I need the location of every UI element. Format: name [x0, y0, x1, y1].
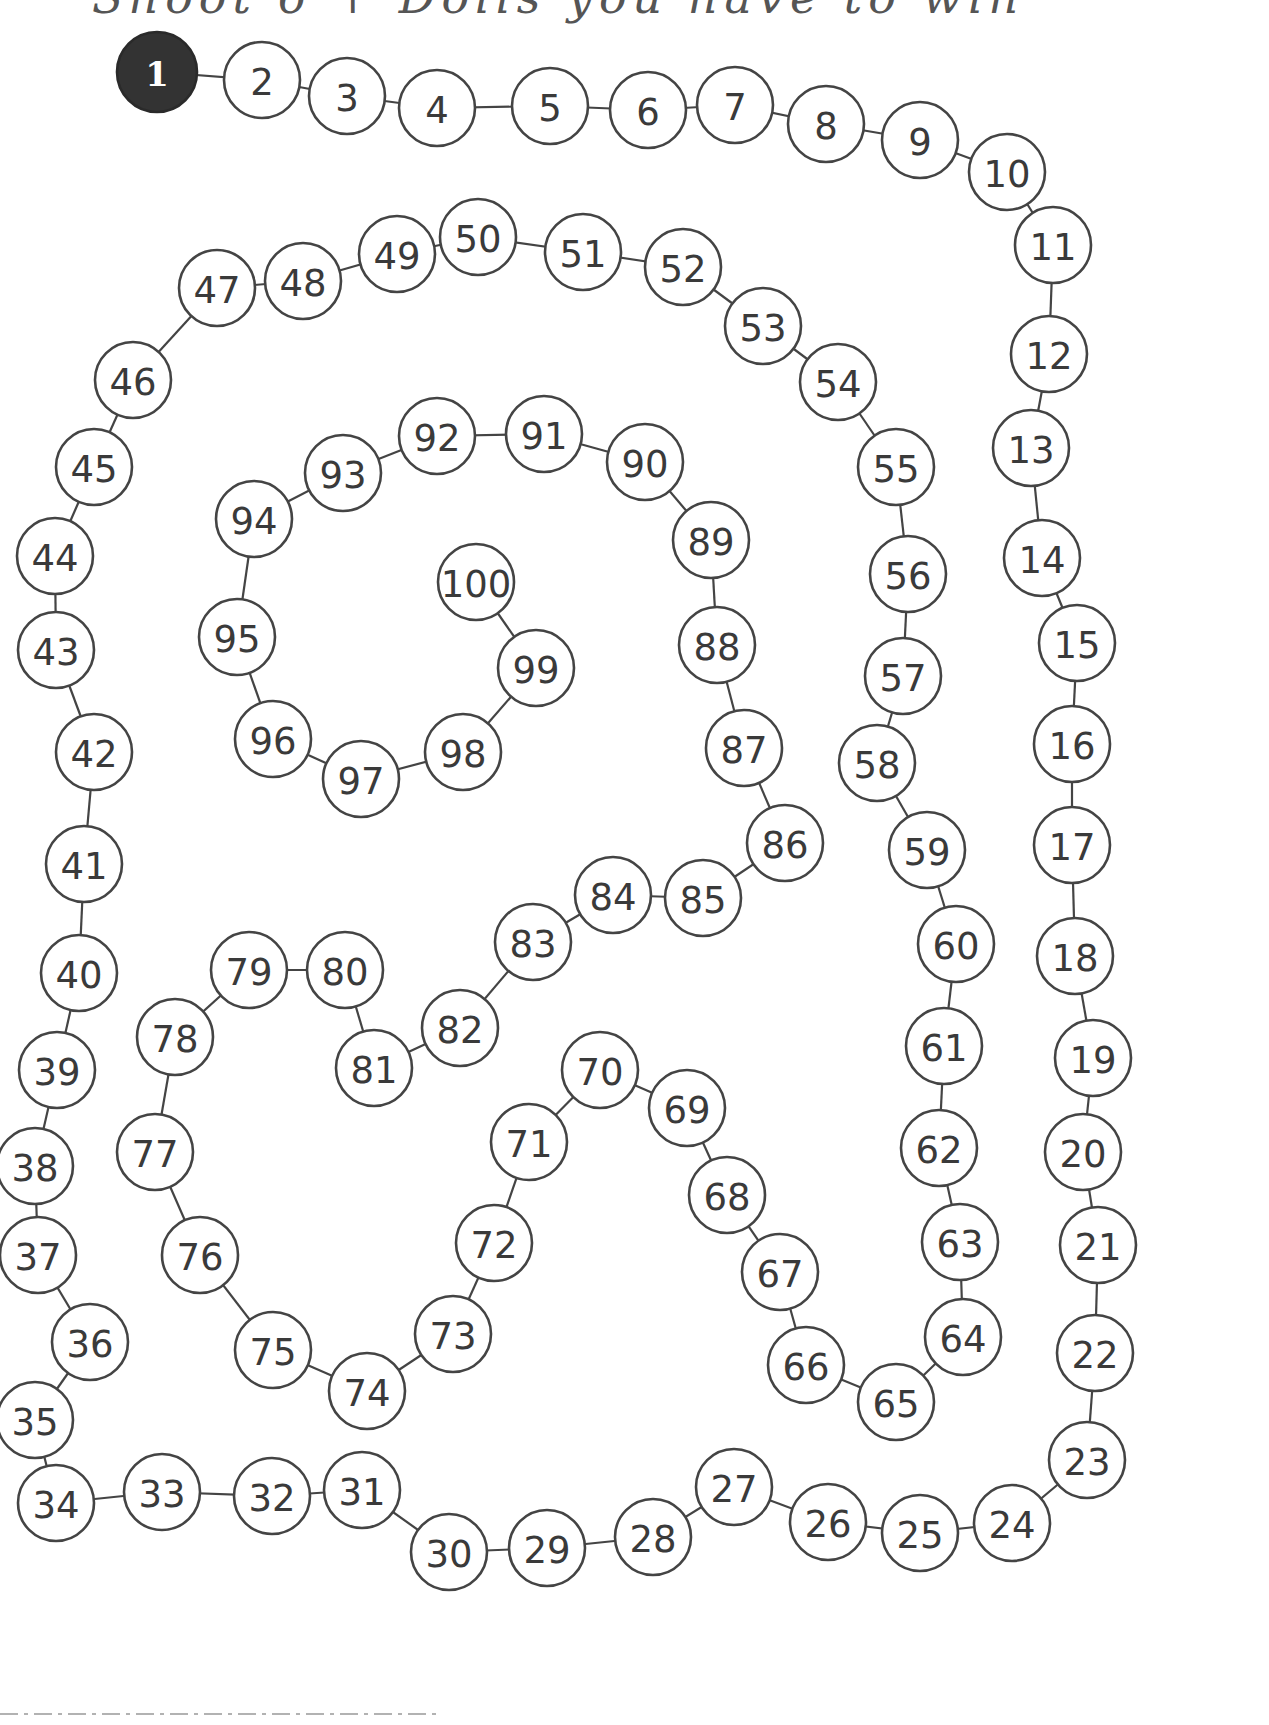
- board-square[interactable]: 78: [137, 999, 213, 1075]
- board-square[interactable]: 41: [46, 826, 122, 902]
- board-square[interactable]: 40: [41, 935, 117, 1011]
- board-square[interactable]: 86: [747, 805, 823, 881]
- board-square[interactable]: 37: [0, 1217, 76, 1293]
- board-square[interactable]: 6: [610, 72, 686, 148]
- board-square[interactable]: 68: [689, 1157, 765, 1233]
- board-square[interactable]: 60: [918, 906, 994, 982]
- board-square[interactable]: 93: [305, 435, 381, 511]
- board-square[interactable]: 23: [1049, 1422, 1125, 1498]
- board-square[interactable]: 25: [882, 1495, 958, 1571]
- board-square[interactable]: 45: [56, 429, 132, 505]
- board-square[interactable]: 42: [56, 714, 132, 790]
- board-square[interactable]: 38: [0, 1128, 73, 1204]
- board-square[interactable]: 18: [1037, 918, 1113, 994]
- board-square[interactable]: 20: [1045, 1114, 1121, 1190]
- board-square[interactable]: 81: [336, 1030, 412, 1106]
- board-square[interactable]: 85: [665, 860, 741, 936]
- board-square[interactable]: 73: [415, 1296, 491, 1372]
- board-square[interactable]: 53: [725, 288, 801, 364]
- board-square[interactable]: 46: [95, 342, 171, 418]
- board-square[interactable]: 4: [399, 70, 475, 146]
- board-square[interactable]: 97: [323, 741, 399, 817]
- board-square[interactable]: 24: [974, 1485, 1050, 1561]
- board-square[interactable]: 33: [124, 1454, 200, 1530]
- board-square[interactable]: 47: [179, 250, 255, 326]
- board-square[interactable]: 95: [199, 599, 275, 675]
- board-square[interactable]: 94: [216, 481, 292, 557]
- board-square[interactable]: 35: [0, 1382, 73, 1458]
- board-square[interactable]: 26: [790, 1484, 866, 1560]
- board-square[interactable]: 21: [1060, 1207, 1136, 1283]
- board-square[interactable]: 32: [234, 1458, 310, 1534]
- board-square[interactable]: 89: [673, 502, 749, 578]
- board-square[interactable]: 29: [509, 1510, 585, 1586]
- board-square[interactable]: 51: [545, 214, 621, 290]
- board-square[interactable]: 55: [858, 429, 934, 505]
- board-square[interactable]: 64: [925, 1299, 1001, 1375]
- board-square[interactable]: 96: [235, 701, 311, 777]
- board-square[interactable]: 69: [649, 1070, 725, 1146]
- board-square[interactable]: 80: [307, 932, 383, 1008]
- board-square[interactable]: 50: [440, 199, 516, 275]
- board-square[interactable]: 13: [993, 410, 1069, 486]
- board-square[interactable]: 19: [1055, 1020, 1131, 1096]
- board-square[interactable]: 63: [922, 1204, 998, 1280]
- board-square[interactable]: 54: [800, 344, 876, 420]
- board-square[interactable]: 61: [906, 1008, 982, 1084]
- board-square[interactable]: 91: [506, 396, 582, 472]
- board-square[interactable]: 65: [858, 1364, 934, 1440]
- board-square[interactable]: 43: [18, 612, 94, 688]
- board-square[interactable]: 39: [19, 1032, 95, 1108]
- board-square[interactable]: 10: [969, 134, 1045, 210]
- board-square[interactable]: 77: [117, 1114, 193, 1190]
- finish-square[interactable]: 100: [438, 544, 514, 620]
- board-square[interactable]: 7: [697, 67, 773, 143]
- board-square[interactable]: 87: [706, 710, 782, 786]
- board-square[interactable]: 36: [52, 1304, 128, 1380]
- board-square[interactable]: 72: [456, 1205, 532, 1281]
- board-square[interactable]: 83: [495, 904, 571, 980]
- board-square[interactable]: 79: [211, 932, 287, 1008]
- board-square[interactable]: 31: [324, 1452, 400, 1528]
- board-square[interactable]: 58: [839, 725, 915, 801]
- board-square[interactable]: 3: [309, 58, 385, 134]
- start-square[interactable]: 1: [117, 32, 197, 112]
- board-square[interactable]: 15: [1039, 605, 1115, 681]
- board-square[interactable]: 9: [882, 102, 958, 178]
- board-square[interactable]: 30: [411, 1514, 487, 1590]
- board-square[interactable]: 67: [742, 1234, 818, 1310]
- board-square[interactable]: 84: [575, 857, 651, 933]
- board-square[interactable]: 75: [235, 1312, 311, 1388]
- board-square[interactable]: 12: [1011, 316, 1087, 392]
- board-square[interactable]: 27: [696, 1449, 772, 1525]
- board-square[interactable]: 8: [788, 86, 864, 162]
- board-square[interactable]: 56: [870, 536, 946, 612]
- board-square[interactable]: 88: [679, 607, 755, 683]
- board-square[interactable]: 57: [865, 638, 941, 714]
- board-square[interactable]: 16: [1034, 706, 1110, 782]
- board-square[interactable]: 92: [399, 398, 475, 474]
- board-square[interactable]: 48: [265, 243, 341, 319]
- board-square[interactable]: 22: [1057, 1315, 1133, 1391]
- board-square[interactable]: 90: [607, 424, 683, 500]
- board-square[interactable]: 14: [1004, 520, 1080, 596]
- board-square[interactable]: 17: [1034, 807, 1110, 883]
- board-square[interactable]: 82: [422, 990, 498, 1066]
- board-square[interactable]: 11: [1015, 207, 1091, 283]
- board-square[interactable]: 71: [491, 1104, 567, 1180]
- board-square[interactable]: 98: [425, 714, 501, 790]
- board-square[interactable]: 76: [162, 1217, 238, 1293]
- board-square[interactable]: 62: [901, 1110, 977, 1186]
- board-square[interactable]: 59: [889, 812, 965, 888]
- board-square[interactable]: 49: [359, 216, 435, 292]
- board-square[interactable]: 44: [17, 518, 93, 594]
- board-square[interactable]: 66: [768, 1327, 844, 1403]
- board-square[interactable]: 74: [329, 1353, 405, 1429]
- board-square[interactable]: 99: [498, 630, 574, 706]
- board-square[interactable]: 2: [224, 42, 300, 118]
- board-square[interactable]: 5: [512, 68, 588, 144]
- board-square[interactable]: 52: [645, 229, 721, 305]
- board-square[interactable]: 34: [18, 1465, 94, 1541]
- board-square[interactable]: 70: [562, 1032, 638, 1108]
- board-square[interactable]: 28: [615, 1499, 691, 1575]
